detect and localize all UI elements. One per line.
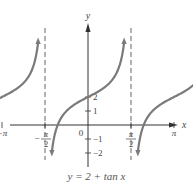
y-tick-label: 2 xyxy=(93,92,98,102)
x-tick-label-numerator: π xyxy=(44,129,49,139)
x-tick-label-sign: − xyxy=(34,133,39,143)
arrow-up-icon xyxy=(122,37,127,44)
origin-label: 0 xyxy=(79,128,84,138)
x-tick-label: π xyxy=(172,128,177,138)
x-tick-label: −π xyxy=(0,128,8,138)
y-tick-label: −1 xyxy=(93,134,103,144)
x-axis-arrow-icon xyxy=(169,123,178,128)
tan-branch xyxy=(138,42,193,151)
arrow-down-icon xyxy=(135,150,140,157)
y-tick-label: 1 xyxy=(93,106,98,116)
x-tick-label-denominator: 2 xyxy=(44,139,48,149)
y-tick-label: −2 xyxy=(93,148,103,158)
x-tick-label-denominator: 2 xyxy=(129,139,133,149)
tick-labels: xy03π2−−ππ2−π2π3π221−1−2 xyxy=(0,10,193,158)
x-axis-label: x xyxy=(181,119,187,130)
x-tick-label-numerator: π xyxy=(129,129,134,139)
chart-caption: y = 2 + tan x xyxy=(0,170,193,182)
arrow-down-icon xyxy=(49,150,54,157)
y-axis-arrow-icon xyxy=(86,23,91,32)
tangent-plot: xy03π2−−ππ2−π2π3π221−1−2 xyxy=(0,0,193,189)
caption-text: y = 2 + tan x xyxy=(68,170,126,182)
y-axis-label: y xyxy=(85,10,91,21)
arrow-up-icon xyxy=(36,37,41,44)
